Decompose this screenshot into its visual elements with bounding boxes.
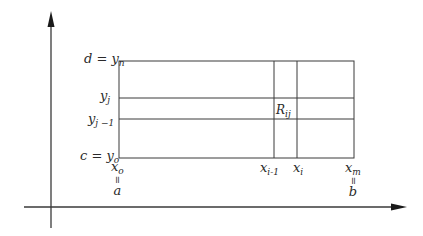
- label-xm: xm: [345, 161, 361, 177]
- partition-diagram: [0, 0, 423, 236]
- label-alias: b: [349, 185, 357, 198]
- label-region-r-ij: Rij: [276, 104, 291, 119]
- label-x0: xo: [111, 160, 124, 176]
- y-axis-arrow-icon: [48, 11, 55, 27]
- label-sub: ij: [285, 109, 291, 119]
- label-y-j-minus-1: yj −1: [88, 112, 114, 128]
- label-main: c = y: [80, 148, 114, 163]
- label-main: R: [276, 103, 285, 117]
- label-sub: i: [300, 167, 303, 177]
- label-sub: n: [119, 58, 125, 68]
- label-d-equals-y-n: d = yn: [84, 52, 125, 68]
- x-axis-arrow-icon: [391, 204, 407, 211]
- label-sub: j: [107, 95, 110, 105]
- equals-sign: =: [113, 176, 121, 184]
- label-sub: m: [352, 167, 361, 177]
- label-sub: j −1: [95, 118, 114, 128]
- label-main: d = y: [84, 51, 119, 66]
- equals-sign: =: [349, 177, 357, 185]
- label-sub: i-1: [267, 167, 279, 177]
- label-alias: a: [114, 184, 122, 197]
- label-sub: o: [118, 166, 123, 176]
- label-x-i: xi: [293, 161, 303, 177]
- label-y-j: yj: [100, 89, 110, 105]
- label-x-0-equals-a: xo = a: [111, 160, 124, 197]
- outer-rectangle: [119, 61, 354, 158]
- label-x-i-minus-1: xi-1: [260, 161, 279, 177]
- label-x-m-equals-b: xm = b: [345, 161, 361, 198]
